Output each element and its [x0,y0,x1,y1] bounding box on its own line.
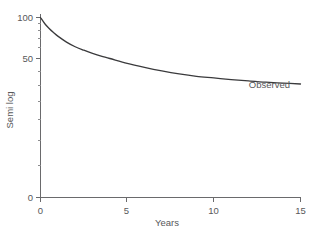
x-tick-label-5: 5 [124,205,129,216]
x-tick-label-15: 15 [295,205,306,216]
y-tick-label-100: 100 [17,12,33,23]
observed-series-label: Observed [249,79,290,90]
observed-curve [41,18,301,84]
x-axis-title: Years [155,217,179,228]
x-tick-label-10: 10 [208,205,219,216]
x-tick-label-0: 0 [38,205,43,216]
semi-log-decay-chart: 100 50 0 0 5 10 15 Years Semi log Observ… [0,0,310,234]
y-tick-label-50: 50 [22,53,33,64]
y-tick-label-0: 0 [28,192,33,203]
y-axis-title: Semi log [4,92,15,129]
chart-figure: 100 50 0 0 5 10 15 Years Semi log Observ… [0,0,310,234]
